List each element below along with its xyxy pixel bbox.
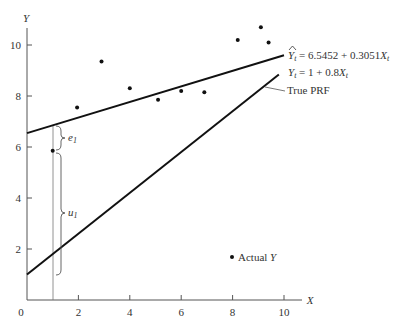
y-tick-label: 6 bbox=[16, 141, 22, 153]
x-tick-label: 10 bbox=[279, 306, 291, 318]
data-point bbox=[267, 40, 271, 44]
data-point bbox=[259, 25, 263, 29]
x-axis-label: X bbox=[306, 294, 315, 306]
y-tick-label: 2 bbox=[16, 243, 22, 255]
true-prf-line bbox=[27, 75, 279, 275]
data-point bbox=[128, 86, 132, 90]
x-tick-label: 6 bbox=[178, 306, 184, 318]
actual-y-legend-marker bbox=[230, 255, 234, 259]
data-point bbox=[75, 105, 79, 109]
true-prf-pointer bbox=[265, 87, 285, 91]
x-tick-label: 4 bbox=[127, 306, 133, 318]
x-tick-label: 2 bbox=[76, 306, 82, 318]
y-tick-label: 8 bbox=[16, 90, 22, 102]
prf-equation: Yt = 1 + 0.8Xt bbox=[288, 66, 349, 80]
srf-equation: Yt = 6.5452 + 0.3051Xt bbox=[288, 49, 390, 63]
y-axis-label: Y bbox=[23, 12, 31, 24]
x-tick-label: 8 bbox=[230, 306, 236, 318]
actual-y-legend-label: Actual Y bbox=[238, 251, 278, 263]
data-point bbox=[202, 90, 206, 94]
e1-brace bbox=[56, 126, 65, 150]
u1-label: u1 bbox=[68, 206, 78, 220]
actual-y-points bbox=[51, 25, 271, 153]
y-ticks: 246810 bbox=[10, 39, 32, 255]
data-point bbox=[156, 98, 160, 102]
e1-label: e1 bbox=[68, 131, 77, 145]
data-point bbox=[179, 89, 183, 93]
data-point bbox=[100, 60, 104, 64]
x-ticks: 0246810 bbox=[18, 295, 290, 318]
regression-chart: 246810 0246810 Y X e1 u1 Yt = 6.5452 + 0… bbox=[0, 0, 406, 330]
data-point bbox=[51, 149, 55, 153]
u1-brace bbox=[56, 153, 65, 275]
data-point bbox=[236, 38, 240, 42]
y-tick-label: 4 bbox=[16, 192, 22, 204]
true-prf-label: True PRF bbox=[287, 84, 330, 96]
x-tick-label: 0 bbox=[18, 306, 24, 318]
srf-line bbox=[27, 55, 284, 133]
y-tick-label: 10 bbox=[10, 39, 22, 51]
